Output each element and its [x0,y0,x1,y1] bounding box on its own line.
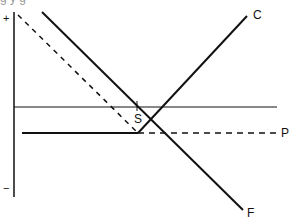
line-shifted-f-dashed [18,15,138,133]
point-label-s: S [134,113,142,125]
axis-plus-label: + [3,13,9,24]
line-c [138,16,247,133]
diagram-lines [14,12,277,210]
curve-label-c: C [253,9,262,21]
curve-label-p: P [281,127,289,139]
axis-minus-label: − [3,183,9,194]
curve-label-f: F [247,207,254,219]
economics-diagram [0,0,294,222]
line-f [42,12,243,210]
